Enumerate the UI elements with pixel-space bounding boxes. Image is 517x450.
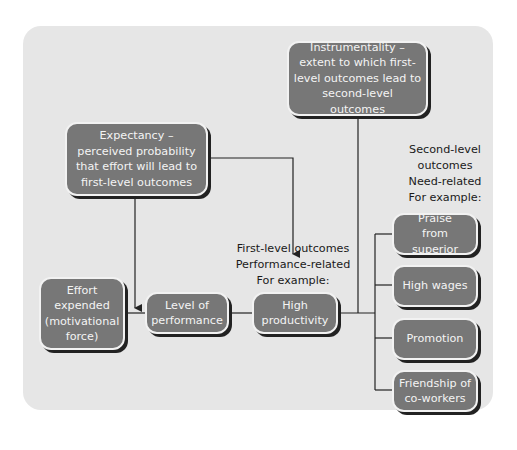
second-level-line-1: Second-level [395, 142, 495, 158]
promotion-text: Promotion [407, 331, 464, 347]
effort-box: Effort expended (motivational force) [39, 277, 125, 350]
instrumentality-text: Instrumentality – extent to which first-… [293, 40, 422, 118]
second-level-outcomes-label: Second-level outcomes Need-related For e… [395, 142, 495, 206]
first-level-line-3: For example: [228, 273, 358, 289]
expectancy-box: Expectancy – perceived probability that … [65, 122, 208, 196]
second-level-line-2: outcomes [395, 158, 495, 174]
praise-box: Praise from superior [392, 213, 478, 255]
second-level-line-4: For example: [395, 190, 495, 206]
first-level-outcomes-label: First-level outcomes Performance-related… [228, 241, 358, 289]
performance-text: Level of performance [151, 298, 223, 329]
praise-text: Praise from superior [406, 211, 464, 258]
expectancy-text: Expectancy – perceived probability that … [71, 128, 202, 190]
wages-text: High wages [402, 278, 467, 294]
performance-box: Level of performance [145, 292, 229, 334]
productivity-box: High productivity [252, 292, 338, 334]
friendship-text: Friendship of co-workers [397, 376, 473, 407]
first-level-line-2: Performance-related [228, 257, 358, 273]
friendship-box: Friendship of co-workers [392, 370, 478, 412]
effort-text: Effort expended (motivational force) [45, 283, 119, 345]
instrumentality-box: Instrumentality – extent to which first-… [287, 41, 428, 116]
first-level-line-1: First-level outcomes [228, 241, 358, 257]
wages-box: High wages [392, 265, 478, 307]
second-level-line-3: Need-related [395, 174, 495, 190]
productivity-text: High productivity [262, 298, 329, 329]
promotion-box: Promotion [392, 318, 478, 360]
